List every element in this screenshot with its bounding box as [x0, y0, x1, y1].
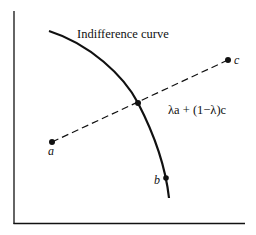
indifference-curve — [49, 31, 169, 198]
curve-label: Indifference curve — [77, 27, 169, 41]
point-c-marker — [225, 57, 231, 63]
point-b-label: b — [154, 173, 160, 187]
point-b-marker — [163, 175, 169, 181]
intersection-marker — [135, 100, 141, 106]
indifference-diagram: Indifference curve c λa + (1−λ)c a b — [0, 0, 256, 235]
point-c-label: c — [234, 53, 240, 67]
point-a-label: a — [48, 144, 54, 158]
lambda-combination-label: λa + (1−λ)c — [168, 103, 227, 117]
